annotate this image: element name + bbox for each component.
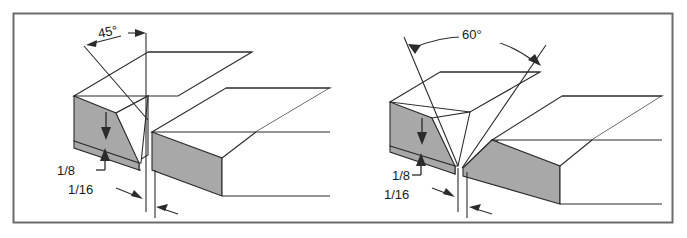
right-angle-label: 60° — [462, 27, 482, 42]
left-root-face-label: 1/8 — [57, 163, 75, 178]
left-root-opening-label: 1/16 — [68, 182, 93, 197]
right-root-face-label: 1/8 — [392, 168, 410, 183]
right-root-opening-label: 1/16 — [384, 187, 409, 202]
welding-joint-figure: 45° 1/8 1/16 — [0, 0, 687, 238]
figure-canvas: 45° 1/8 1/16 — [0, 0, 687, 238]
